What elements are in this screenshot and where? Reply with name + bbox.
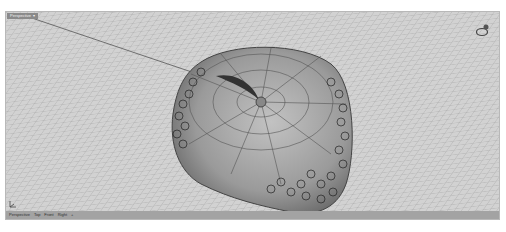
perspective-viewport[interactable]: Perspective ▾ (6, 12, 499, 211)
add-viewport-tab-button[interactable]: + (71, 211, 73, 219)
orbit-rotate-icon[interactable] (475, 22, 491, 38)
viewport-title: Perspective (10, 13, 31, 19)
tab-front[interactable]: Front (44, 211, 53, 219)
world-axis-icon (8, 199, 18, 209)
tab-top[interactable]: Top (34, 211, 40, 219)
tab-right[interactable]: Right (58, 211, 67, 219)
rhino-viewport-frame: Perspective ▾ (5, 11, 500, 220)
viewport-title-label[interactable]: Perspective ▾ (7, 13, 38, 19)
apple-model[interactable] (161, 34, 371, 211)
viewport-tab-bar: Perspective Top Front Right + (6, 211, 499, 219)
dropdown-triangle-icon: ▾ (33, 13, 35, 19)
tab-perspective[interactable]: Perspective (9, 211, 30, 219)
